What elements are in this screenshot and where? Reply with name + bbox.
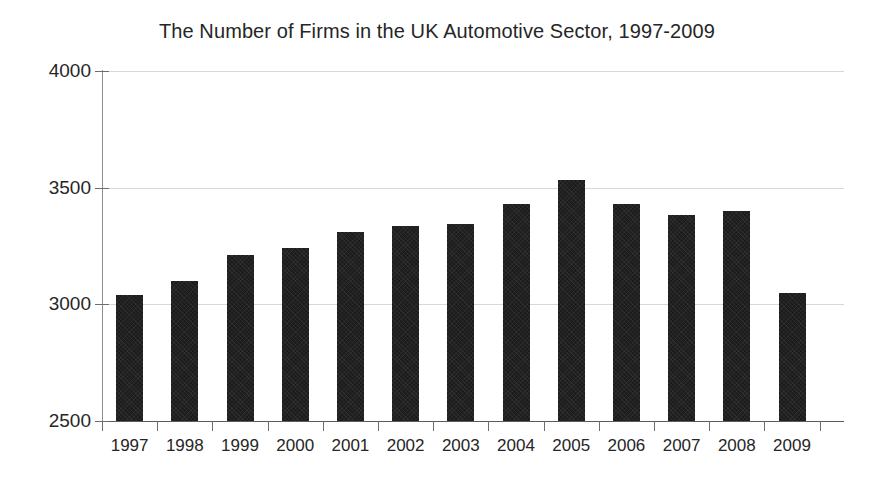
x-axis-tick-label: 2003 <box>442 436 480 456</box>
x-axis-tick <box>378 421 379 431</box>
plot-area: 2500300035004000 <box>102 71 844 421</box>
x-axis-tick <box>433 421 434 431</box>
x-axis-tick <box>544 421 545 431</box>
bar <box>503 204 530 421</box>
x-axis-tick-label: 2008 <box>718 436 756 456</box>
x-axis-tick <box>488 421 489 431</box>
bar <box>337 232 364 421</box>
x-axis-tick-label: 1997 <box>111 436 149 456</box>
x-axis-tick-label: 1998 <box>166 436 204 456</box>
gridline <box>102 188 844 189</box>
x-axis-tick <box>599 421 600 431</box>
x-axis-tick-label: 2009 <box>773 436 811 456</box>
x-axis-tick <box>654 421 655 431</box>
y-axis-tick-label: 2500 <box>49 410 91 432</box>
bar-chart-figure: The Number of Firms in the UK Automotive… <box>0 0 874 489</box>
bar <box>668 215 695 422</box>
x-axis-tick <box>212 421 213 431</box>
x-axis-tick <box>820 421 821 431</box>
gridline <box>102 71 844 72</box>
bar <box>116 295 143 421</box>
x-axis-tick-label: 2002 <box>387 436 425 456</box>
bar <box>723 211 750 421</box>
bar <box>779 293 806 421</box>
bar <box>447 224 474 421</box>
x-axis-tick <box>323 421 324 431</box>
bar <box>392 226 419 421</box>
x-axis-tick <box>157 421 158 431</box>
y-axis-tick-label: 4000 <box>49 60 91 82</box>
y-axis-tick <box>95 304 109 305</box>
x-axis-tick-label: 2004 <box>497 436 535 456</box>
x-axis-tick-label: 2005 <box>552 436 590 456</box>
x-axis-tick-label: 1999 <box>221 436 259 456</box>
y-axis-tick <box>95 188 109 189</box>
bar <box>613 204 640 421</box>
y-axis-tick <box>95 71 109 72</box>
y-axis-tick-label: 3000 <box>49 293 91 315</box>
bar <box>558 180 585 422</box>
x-axis-tick-label: 2007 <box>663 436 701 456</box>
bar <box>171 281 198 421</box>
bar <box>227 255 254 421</box>
x-axis-tick <box>102 421 103 431</box>
x-axis-tick <box>268 421 269 431</box>
x-axis-tick-label: 2000 <box>276 436 314 456</box>
x-axis-tick-label: 2006 <box>607 436 645 456</box>
bar <box>282 248 309 421</box>
x-axis-tick-label: 2001 <box>331 436 369 456</box>
chart-title: The Number of Firms in the UK Automotive… <box>0 20 874 43</box>
x-axis-tick <box>709 421 710 431</box>
x-axis-tick <box>764 421 765 431</box>
y-axis-tick-label: 3500 <box>49 177 91 199</box>
